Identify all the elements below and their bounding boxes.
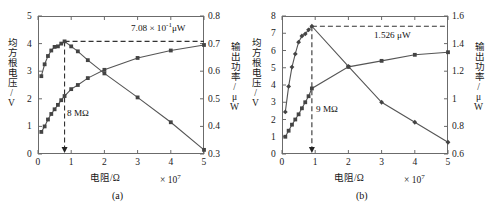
y-left-tick-a-2: 2 bbox=[27, 95, 32, 105]
optimal-resistance-annotation-b: 9 MΩ bbox=[316, 105, 338, 114]
x-tick-b-1: 1 bbox=[313, 158, 318, 168]
y-right-axis-title-b: 输出功率/μW bbox=[473, 42, 483, 112]
y-right-tick-b-5: 1.6 bbox=[452, 12, 464, 22]
y-left-tick-b-8: 8 bbox=[271, 12, 276, 22]
peak-power-annotation-a: 7.08 × 10-1μW bbox=[131, 22, 186, 33]
x-axis-multiplier-b: × 107 bbox=[404, 174, 425, 186]
y-left-tick-a-1: 1 bbox=[27, 122, 32, 132]
y-left-tick-a-4: 4 bbox=[27, 40, 32, 50]
y-right-tick-b-2: 1 bbox=[452, 95, 457, 105]
x-axis-title-b: 电阻/Ω bbox=[334, 174, 364, 184]
y-left-tick-b-2: 2 bbox=[271, 116, 276, 126]
y-right-tick-b-4: 1.4 bbox=[452, 40, 464, 50]
x-tick-b-0: 0 bbox=[280, 158, 285, 168]
x-tick-a-3: 3 bbox=[135, 158, 140, 168]
x-tick-b-3: 3 bbox=[379, 158, 384, 168]
y-right-tick-a-2: 0.5 bbox=[208, 95, 220, 105]
panel-caption-b: (b) bbox=[356, 191, 368, 201]
y-left-tick-b-1: 1 bbox=[271, 133, 276, 143]
y-left-tick-b-7: 7 bbox=[271, 29, 276, 39]
x-tick-a-5: 5 bbox=[202, 158, 207, 168]
x-axis-title-a: 电阻/Ω bbox=[90, 174, 120, 184]
y-right-axis-title-a: 输出功率/μW bbox=[229, 42, 239, 112]
y-left-tick-b-3: 3 bbox=[271, 98, 276, 108]
y-left-tick-a-0: 0 bbox=[27, 150, 32, 160]
peak-power-base-a: 7.08 × 10 bbox=[131, 23, 166, 33]
panel-caption-a: (a) bbox=[112, 191, 123, 201]
x-tick-a-4: 4 bbox=[168, 158, 173, 168]
chart-panel-b: 0 1 2 3 4 5 6 7 8 0.6 0.8 1 1.2 1.4 1.6 … bbox=[244, 0, 488, 208]
y-right-tick-a-0: 0.3 bbox=[208, 150, 220, 160]
y-right-tick-a-4: 0.7 bbox=[208, 40, 220, 50]
y-left-tick-b-6: 6 bbox=[271, 47, 276, 57]
y-left-tick-a-3: 3 bbox=[27, 67, 32, 77]
x-tick-a-2: 2 bbox=[102, 158, 107, 168]
x-axis-multiplier-exp-b: 7 bbox=[421, 173, 425, 181]
y-right-tick-a-5: 0.8 bbox=[208, 12, 220, 22]
y-left-tick-b-4: 4 bbox=[271, 81, 276, 91]
y-left-tick-b-0: 0 bbox=[271, 150, 276, 160]
peak-power-unit-a: μW bbox=[172, 23, 186, 33]
x-axis-multiplier-base-a: × 10 bbox=[160, 175, 177, 185]
y-left-axis-title-a: 均方根电压/V bbox=[6, 38, 16, 108]
x-axis-multiplier-base-b: × 10 bbox=[404, 175, 421, 185]
y-left-axis-title-b: 均方根电压/V bbox=[250, 38, 260, 108]
y-right-tick-b-3: 1.2 bbox=[452, 67, 464, 77]
y-left-tick-a-5: 5 bbox=[27, 12, 32, 22]
chart-panel-a: 0 1 2 3 4 5 0.3 0.4 0.5 0.6 0.7 0.8 0 1 … bbox=[0, 0, 244, 208]
figure-container: 0 1 2 3 4 5 0.3 0.4 0.5 0.6 0.7 0.8 0 1 … bbox=[0, 0, 488, 208]
x-axis-multiplier-a: × 107 bbox=[160, 174, 181, 186]
x-axis-multiplier-exp-a: 7 bbox=[177, 173, 181, 181]
x-tick-a-0: 0 bbox=[36, 158, 41, 168]
y-right-tick-a-1: 0.4 bbox=[208, 122, 220, 132]
y-right-tick-a-3: 0.6 bbox=[208, 67, 220, 77]
y-right-tick-b-1: 0.8 bbox=[452, 122, 464, 132]
peak-power-annotation-b: 1.526 μW bbox=[374, 31, 411, 40]
x-tick-b-4: 4 bbox=[412, 158, 417, 168]
y-left-tick-b-5: 5 bbox=[271, 64, 276, 74]
y-right-tick-b-0: 0.6 bbox=[452, 150, 464, 160]
optimal-resistance-annotation-a: 8 MΩ bbox=[67, 109, 89, 118]
x-tick-b-2: 2 bbox=[346, 158, 351, 168]
x-tick-a-1: 1 bbox=[69, 158, 74, 168]
x-tick-b-5: 5 bbox=[446, 158, 451, 168]
